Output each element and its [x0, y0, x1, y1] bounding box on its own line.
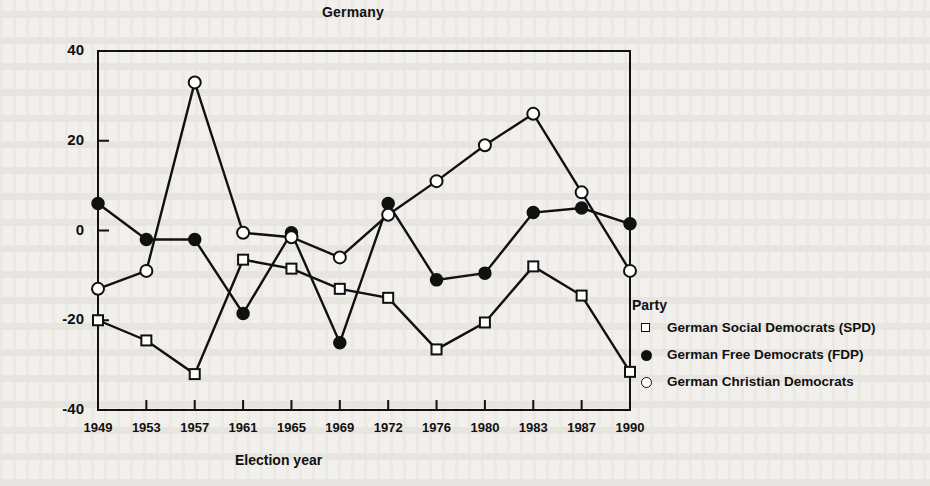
legend-title: Party	[632, 297, 667, 313]
legend-item-label: German Social Democrats (SPD)	[667, 320, 876, 335]
data-point-marker	[140, 233, 152, 245]
data-point-marker	[624, 218, 636, 230]
legend-marker-open-square-icon	[641, 323, 650, 332]
x-axis-tick-label: 1987	[555, 420, 609, 435]
x-axis-tick-label: 1972	[361, 420, 415, 435]
data-point-marker	[190, 369, 200, 379]
data-point-marker	[141, 335, 151, 345]
x-axis-title: Election year	[235, 452, 322, 468]
data-point-marker	[334, 337, 346, 349]
series-line-2	[98, 82, 630, 288]
data-point-marker	[334, 251, 346, 263]
plot-frame	[98, 51, 630, 410]
data-point-marker	[189, 76, 201, 88]
x-axis-tick-label: 1983	[506, 420, 560, 435]
data-point-marker	[140, 265, 152, 277]
data-point-marker	[576, 202, 588, 214]
data-point-marker	[189, 233, 201, 245]
data-point-marker	[479, 267, 491, 279]
x-axis-tick-label: 1980	[458, 420, 512, 435]
series-line-0	[98, 260, 630, 374]
data-point-marker	[527, 207, 539, 219]
data-point-marker	[577, 291, 587, 301]
data-point-marker	[382, 198, 394, 210]
legend-marker-filled-circle-icon	[641, 350, 652, 361]
data-point-marker	[237, 308, 249, 320]
data-point-marker	[286, 264, 296, 274]
plot-canvas	[0, 0, 930, 486]
y-axis-tick-label: -40	[44, 400, 84, 417]
data-point-marker	[238, 255, 248, 265]
data-point-marker	[624, 265, 636, 277]
data-point-marker	[480, 317, 490, 327]
y-axis-tick-label: 0	[44, 221, 84, 238]
y-axis-tick-label: 40	[44, 41, 84, 58]
x-axis-tick-label: 1976	[410, 420, 464, 435]
data-point-marker	[335, 284, 345, 294]
x-axis-tick-label: 1965	[264, 420, 318, 435]
x-axis-tick-label: 1961	[216, 420, 270, 435]
data-point-marker	[237, 227, 249, 239]
x-axis-tick-label: 1969	[313, 420, 367, 435]
data-point-marker	[383, 293, 393, 303]
y-axis-tick-label: -20	[44, 310, 84, 327]
series-line-1	[98, 204, 630, 343]
data-point-marker	[479, 139, 491, 151]
legend-item-label: German Free Democrats (FDP)	[667, 347, 864, 362]
data-point-marker	[93, 315, 103, 325]
data-point-marker	[625, 367, 635, 377]
data-point-marker	[92, 283, 104, 295]
data-point-marker	[285, 231, 297, 243]
x-axis-tick-label: 1990	[603, 420, 657, 435]
data-point-marker	[576, 186, 588, 198]
data-point-marker	[432, 344, 442, 354]
data-point-marker	[527, 108, 539, 120]
y-axis-tick-label: 20	[44, 131, 84, 148]
legend-marker-open-circle-icon	[641, 377, 652, 388]
x-axis-tick-label: 1957	[168, 420, 222, 435]
x-axis-tick-label: 1949	[71, 420, 125, 435]
legend-item-label: German Christian Democrats	[667, 374, 854, 389]
data-point-marker	[431, 274, 443, 286]
data-point-marker	[431, 175, 443, 187]
data-point-marker	[92, 198, 104, 210]
chart-figure: Germany 40200-20-40 19491953195719611965…	[0, 0, 930, 486]
data-point-marker	[528, 261, 538, 271]
x-axis-tick-label: 1953	[119, 420, 173, 435]
data-point-marker	[382, 209, 394, 221]
